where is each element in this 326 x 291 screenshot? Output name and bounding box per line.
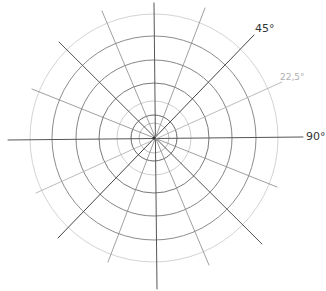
label-45-degrees: 45° (255, 22, 275, 35)
center-point (152, 136, 155, 139)
label-22-5-degrees: 22,5° (280, 72, 305, 82)
spoke-vertical (154, 3, 157, 289)
label-90-degrees: 90° (306, 130, 326, 143)
